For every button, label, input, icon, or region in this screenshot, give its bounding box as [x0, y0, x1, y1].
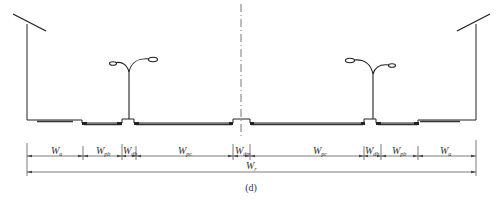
curb-center-right	[250, 122, 254, 125]
figure-caption: (d)	[245, 182, 257, 194]
label-wpb-right: Wpb	[392, 145, 406, 157]
road-cross-section-figure: Wa Wpb Wdb Wpc Wdm Wpc Wdb Wpb Wa Wr (d)	[0, 0, 498, 204]
left-building	[13, 14, 46, 120]
curb-right-outer	[414, 122, 419, 125]
label-wpc-right: Wpc	[313, 145, 327, 157]
right-lamp-arm-right	[373, 65, 389, 74]
left-lamp-arm-right	[129, 59, 149, 72]
label-wa-left: Wa	[51, 145, 62, 157]
label-wa-right: Wa	[440, 145, 451, 157]
left-street-lamp	[110, 57, 158, 119]
right-lamp-head-left-icon	[346, 58, 355, 62]
label-wdb-right: Wdb	[365, 145, 379, 157]
label-wpb-left: Wpb	[96, 145, 110, 157]
right-roof-line	[457, 14, 490, 31]
right-street-lamp	[346, 58, 396, 119]
curb-right-inner-b	[376, 122, 381, 125]
label-wdm: Wdm	[235, 145, 251, 157]
curb-left-inner-b	[134, 122, 139, 125]
right-building	[457, 14, 490, 120]
left-roof-line	[13, 14, 46, 31]
curbs	[82, 122, 419, 125]
left-lamp-head-left-icon	[110, 62, 117, 66]
curb-left-outer	[82, 122, 87, 125]
right-lamp-arm-left	[354, 60, 373, 74]
dimension-labels: Wa Wpb Wdb Wpc Wdm Wpc Wdb Wpb Wa Wr	[51, 145, 451, 172]
label-wdb-left: Wdb	[123, 145, 137, 157]
left-lamp-head-right-icon	[149, 57, 158, 61]
label-wpc-left: Wpc	[178, 145, 192, 157]
curb-left-inner-a	[117, 122, 122, 125]
right-lamp-head-right-icon	[389, 64, 396, 68]
curb-center-left	[229, 122, 233, 125]
curb-right-inner-a	[361, 122, 365, 125]
label-wr-total: Wr	[246, 160, 257, 172]
